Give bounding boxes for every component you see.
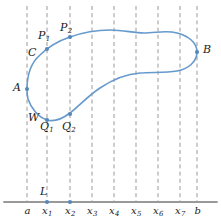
point-Q2 [68,112,72,116]
label-C: C [28,47,36,58]
point-L [45,200,49,204]
tick-label-b-text: b [195,205,201,216]
label-P1-subscript: 1 [45,35,50,43]
label-A-text: A [13,81,21,94]
label-Q1: Q1 [40,121,54,134]
tick-label-x5: x5 [131,206,141,216]
tick-label-x2: x2 [65,206,75,216]
label-Q2-text: Q [62,120,71,133]
closed-curve [27,30,197,121]
point-B [195,50,199,54]
point-P1 [45,47,49,51]
tick-label-a: a [25,206,31,216]
tick-label-x7-text: x [175,205,181,216]
point-x2-axis [68,200,72,204]
tick-label-x6-text: x [153,205,159,216]
tick-label-x5-subscript: 5 [137,210,142,216]
label-L: L [40,186,47,197]
tick-label-x7: x7 [175,206,185,216]
tick-label-x3-text: x [87,205,93,216]
tick-label-x6-subscript: 6 [159,210,164,216]
tick-label-x5-text: x [131,205,137,216]
label-A: A [13,82,21,93]
tick-label-x4-subscript: 4 [115,210,120,216]
tick-label-a-text: a [25,205,31,216]
label-Q1-subscript: 1 [49,126,54,134]
point-P2 [68,35,72,39]
tick-label-x2-subscript: 2 [71,210,76,216]
label-P1: P1 [38,30,50,43]
label-B: B [203,44,211,55]
tick-label-x3: x3 [87,206,97,216]
label-P2-subscript: 2 [67,27,72,35]
tick-label-x4: x4 [109,206,119,216]
tick-label-x6: x6 [153,206,163,216]
tick-label-x1: x1 [42,206,52,216]
figure-canvas [0,0,221,216]
label-P2: P2 [60,22,72,35]
label-W: W [28,112,39,123]
figure-container: P1P2CBAWQ1Q2Lax1x2x3x4x5x6x7b [0,0,221,216]
tick-label-b: b [195,206,201,216]
tick-label-x7-subscript: 7 [181,210,186,216]
tick-label-x4-text: x [109,205,115,216]
point-A [25,87,29,91]
tick-label-x1-subscript: 1 [48,210,53,216]
tick-label-x2-text: x [65,205,71,216]
label-Q2: Q2 [62,121,76,134]
label-C-text: C [28,46,36,59]
label-Q2-subscript: 2 [71,126,76,134]
label-L-text: L [40,185,47,198]
tick-label-x1-text: x [42,205,48,216]
label-B-text: B [203,43,211,56]
label-Q1-text: Q [40,120,49,133]
label-W-text: W [28,111,39,124]
tick-label-x3-subscript: 3 [93,210,98,216]
